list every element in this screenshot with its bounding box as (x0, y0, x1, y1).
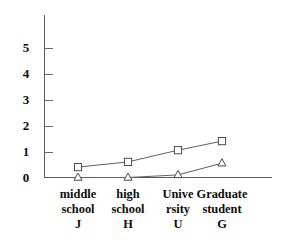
y-axis-label-4: 4 (23, 66, 30, 81)
y-axis-labels: 5 4 3 2 1 0 (23, 40, 30, 185)
x-label-1-line-2: H (123, 217, 133, 231)
y-axis-label-2: 2 (23, 118, 30, 133)
y-axis-label-1: 1 (23, 144, 30, 159)
x-label-2-line-0: Unive (163, 187, 194, 201)
series-square (74, 138, 225, 171)
x-axis-category-labels: middleschoolJhighschoolHUniversityUGradu… (60, 187, 248, 231)
y-axis-label-0: 0 (23, 170, 30, 185)
x-label-0-line-1: school (61, 202, 95, 216)
data-point-square-0 (74, 164, 81, 171)
data-point-square-3 (218, 138, 225, 145)
series-line-square (78, 141, 222, 167)
data-point-square-2 (174, 147, 181, 154)
x-label-0-line-2: J (75, 217, 81, 231)
x-label-2-line-2: U (174, 217, 183, 231)
chart-container: 5 4 3 2 1 0 middleschoolJhighschoolHUniv… (0, 0, 283, 247)
line-chart: 5 4 3 2 1 0 middleschoolJhighschoolHUniv… (0, 0, 283, 247)
y-axis-ticks (45, 49, 53, 153)
x-label-0-line-0: middle (60, 187, 97, 201)
series-layer (74, 138, 226, 181)
data-point-square-1 (124, 158, 131, 165)
x-label-1-line-0: high (116, 187, 140, 201)
y-axis-label-3: 3 (23, 92, 30, 107)
data-point-triangle-1 (124, 173, 132, 180)
x-label-3-line-0: Graduate (197, 187, 248, 201)
x-label-2-line-1: rsity (166, 202, 191, 216)
data-point-triangle-0 (74, 173, 82, 180)
x-label-3-line-2: G (217, 217, 227, 231)
data-point-triangle-3 (218, 159, 226, 166)
x-label-1-line-1: school (111, 202, 145, 216)
y-axis-label-5: 5 (23, 40, 30, 55)
x-label-3-line-1: student (202, 202, 242, 216)
